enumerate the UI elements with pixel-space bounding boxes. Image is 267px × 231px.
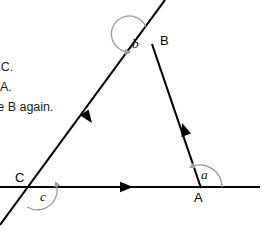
vertex-label-b: B — [160, 33, 169, 48]
instruction-line-2: ce A. — [0, 80, 12, 94]
angle-label-b: b — [132, 36, 139, 52]
vertex-label-a: A — [194, 190, 203, 205]
vertex-label-c: C — [15, 170, 24, 185]
angle-label-c: c — [40, 189, 46, 205]
arrow-on-base-CA — [120, 182, 133, 192]
instruction-line-1: ce C. — [0, 60, 13, 74]
instruction-line-3: ace B again. — [0, 100, 54, 114]
diagram-canvas: ce C. ce A. ace B again. A B C a b c — [0, 0, 267, 231]
angle-label-a: a — [201, 167, 208, 183]
